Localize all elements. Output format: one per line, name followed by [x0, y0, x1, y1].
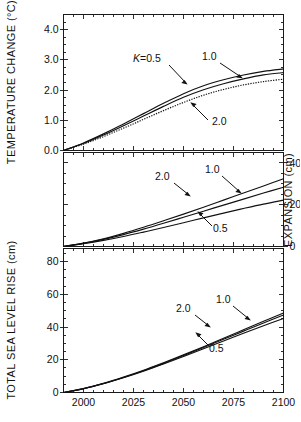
bottom-panel-y-axis-title: TOTAL SEA LEVEL RISE (cm) [5, 240, 17, 399]
top-panel-axes-box [64, 15, 284, 151]
middle-panel-curves [64, 179, 284, 247]
panel-thermal-expansion: 02040 EXPANSION (cm) 2.0 1.0 0.5 [64, 153, 301, 253]
y-tick-label: 0.0 [44, 144, 59, 156]
panel-total-sea-level-rise: 020406080 20002025205020752100 TOTAL SEA… [5, 240, 295, 407]
top-panel-y-axis-title: TEMPERATURE CHANGE (°C) [5, 0, 17, 164]
top-annotation-k-0.5-arrow [169, 65, 186, 83]
top-annotation-1.0-label: 1.0 [202, 50, 217, 62]
k-value: =0.5 [140, 52, 161, 64]
middle-panel-axes-box [64, 153, 284, 247]
y-tick-label: 4.0 [44, 23, 59, 35]
curve-bottom-0.5 [64, 319, 284, 393]
top-annotation-k-0.5-label: K=0.5 [133, 52, 161, 64]
middle-annotation-1.0-label: 1.0 [205, 163, 220, 175]
figure-container: 0.01.02.03.04.0 TEMPERATURE CHANGE (°C) … [0, 0, 300, 422]
x-tick-label: 2050 [172, 396, 196, 408]
y-tick-label: 80 [47, 255, 59, 267]
top-annotation-2.0-label: 2.0 [212, 115, 227, 127]
y-tick-label: 0 [53, 386, 59, 398]
y-tick-label: 3.0 [44, 53, 59, 65]
bottom-panel-frame [64, 249, 284, 393]
bottom-annotation-0.5-arrowhead [195, 332, 201, 337]
middle-annotation-0.5: 0.5 [197, 211, 227, 234]
top-panel-ticks [60, 15, 284, 151]
bottom-panel-curves [64, 313, 284, 393]
curve-top-2.0 [64, 79, 284, 150]
top-panel-frame [64, 15, 284, 151]
middle-panel-frame [64, 153, 284, 247]
middle-annotation-1.0: 1.0 [205, 163, 242, 194]
top-annotation-k-0.5-arrowhead [181, 80, 187, 85]
middle-annotation-1.0-arrow [222, 176, 240, 192]
middle-annotation-0.5-label: 0.5 [213, 222, 228, 234]
panel-temperature-change: 0.01.02.03.04.0 TEMPERATURE CHANGE (°C) … [5, 0, 284, 164]
x-tick-label: 2000 [72, 396, 96, 408]
bottom-annotation-1.0-label: 1.0 [216, 293, 231, 305]
curve-bottom-2.0 [64, 313, 284, 393]
y-tick-label: 2.0 [44, 84, 59, 96]
middle-panel-ticks [64, 153, 288, 247]
top-annotation-2.0-arrowhead [190, 102, 196, 107]
bottom-annotation-2.0: 2.0 [176, 302, 211, 328]
bottom-annotation-1.0: 1.0 [216, 293, 251, 321]
x-tick-label: 2025 [122, 396, 146, 408]
top-annotation-k-0.5: K=0.5 [133, 52, 188, 85]
y-tick-label: 20 [47, 353, 59, 365]
bottom-panel-x-tick-labels: 20002025205020752100 [72, 396, 296, 408]
bottom-annotation-2.0-label: 2.0 [176, 302, 191, 314]
y-tick-label: 1.0 [44, 114, 59, 126]
curve-top-1.0 [64, 73, 284, 151]
middle-panel-y-axis-title: EXPANSION (cm) [282, 153, 294, 247]
bottom-panel-y-tick-labels: 020406080 [47, 255, 59, 398]
top-annotation-2.0-arrow [192, 104, 208, 120]
three-panel-line-chart: 0.01.02.03.04.0 TEMPERATURE CHANGE (°C) … [0, 0, 300, 422]
middle-annotation-2.0-label: 2.0 [155, 170, 170, 182]
x-tick-label: 2075 [222, 396, 246, 408]
curve-middle-2.0 [64, 179, 284, 247]
top-annotation-1.0-arrow [220, 63, 241, 77]
y-tick-label: 40 [47, 321, 59, 333]
bottom-annotation-0.5-label: 0.5 [209, 342, 224, 354]
bottom-panel-axes-box [64, 249, 284, 393]
top-panel-curves [64, 69, 284, 151]
bottom-panel-ticks [60, 249, 284, 393]
top-panel-y-tick-labels: 0.01.02.03.04.0 [44, 23, 59, 156]
x-tick-label: 2100 [272, 396, 296, 408]
middle-annotation-2.0: 2.0 [155, 170, 191, 196]
y-tick-label: 60 [47, 288, 59, 300]
middle-annotation-1.0-arrowhead [235, 189, 241, 194]
curve-middle-1.0 [64, 187, 284, 246]
curve-middle-0.5 [64, 200, 284, 246]
top-annotation-2.0: 2.0 [190, 102, 226, 127]
top-annotation-1.0: 1.0 [202, 50, 243, 78]
